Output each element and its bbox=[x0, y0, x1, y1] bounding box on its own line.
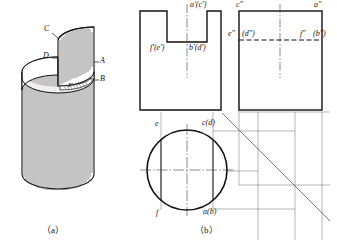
caption-b: （b） bbox=[195, 226, 218, 235]
pictorial-label-b: B bbox=[100, 75, 105, 83]
pictorial-label-a: A bbox=[100, 57, 105, 65]
pictorial-cylinder-with-slot bbox=[22, 27, 99, 190]
front-view-label-a-c: a'(c') bbox=[190, 1, 206, 9]
pictorial-label-d: D bbox=[43, 52, 49, 60]
top-view-label-c-d: c(d) bbox=[202, 119, 215, 127]
side-view-label-e: e" bbox=[228, 30, 235, 38]
top-view-label-a-b: a(b) bbox=[203, 208, 216, 216]
side-view-outline bbox=[239, 11, 322, 110]
side-view-label-c: c" bbox=[236, 1, 243, 9]
pictorial-label-f: F bbox=[68, 82, 72, 89]
side-view-label-b: (b") bbox=[313, 30, 326, 38]
engineering-drawing-figure bbox=[0, 0, 337, 249]
miter-line-45deg bbox=[222, 113, 330, 221]
side-view bbox=[239, 4, 322, 110]
front-view-outline bbox=[140, 11, 221, 110]
front-view-label-f-e: f'(e') bbox=[150, 44, 165, 52]
top-view bbox=[140, 124, 234, 216]
side-view-label-d: (d") bbox=[242, 30, 255, 38]
top-view-label-f: f bbox=[156, 209, 158, 217]
front-view-label-b-d: b'(d') bbox=[189, 44, 206, 52]
tick-c bbox=[52, 33, 58, 38]
side-view-label-a: a" bbox=[314, 1, 321, 9]
side-view-label-f: f" bbox=[300, 30, 306, 38]
pictorial-label-c: C bbox=[44, 25, 49, 33]
front-view bbox=[140, 4, 221, 110]
caption-a: （a） bbox=[42, 226, 64, 235]
top-view-label-e: e bbox=[155, 120, 159, 128]
